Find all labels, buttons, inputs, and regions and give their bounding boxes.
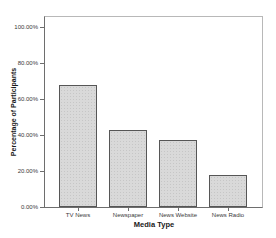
x-tick-mark [178, 208, 179, 211]
y-tick-label: 80.00% [0, 60, 38, 67]
y-axis-title: Percentage of Participants [10, 68, 17, 156]
bar-chart: Percentage of Participants Media Type 0.… [0, 0, 276, 238]
bar [59, 85, 97, 207]
x-axis-title: Media Type [134, 220, 174, 229]
x-tick-label: News Radio [200, 212, 256, 219]
y-tick-label: 20.00% [0, 168, 38, 175]
bar [109, 130, 147, 207]
y-tick-mark [40, 27, 44, 28]
x-tick-label: TV News [50, 212, 106, 219]
x-tick-mark [128, 208, 129, 211]
x-tick-mark [78, 208, 79, 211]
y-tick-label: 40.00% [0, 132, 38, 139]
y-tick-label: 100.00% [0, 24, 38, 31]
y-tick-mark [40, 135, 44, 136]
x-tick-mark [228, 208, 229, 211]
x-tick-label: Newspaper [100, 212, 156, 219]
y-tick-mark [40, 99, 44, 100]
y-tick-mark [40, 63, 44, 64]
y-tick-mark [40, 207, 44, 208]
x-tick-label: News Website [150, 212, 206, 219]
y-tick-label: 60.00% [0, 96, 38, 103]
bar [159, 140, 197, 207]
y-tick-mark [40, 171, 44, 172]
bar [209, 175, 247, 207]
y-tick-label: 0.00% [0, 204, 38, 211]
